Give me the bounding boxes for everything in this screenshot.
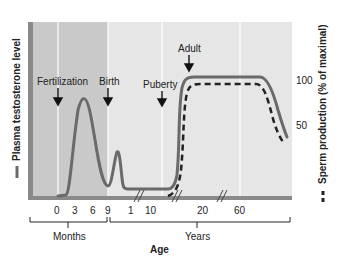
label-adult: Adult xyxy=(178,43,201,54)
y-left-axis-title: Plasma testosterone level xyxy=(11,38,22,161)
group-label-years: Years xyxy=(185,231,210,242)
x-tick-60: 60 xyxy=(234,205,246,216)
x-tick-9: 9 xyxy=(105,205,111,216)
group-label-months: Months xyxy=(53,231,86,242)
testosterone-chart: Fertilization Birth Puberty Adult 100 50… xyxy=(0,0,344,258)
y-right-tick-100: 100 xyxy=(296,75,313,86)
left-axis-bar xyxy=(28,22,33,200)
plot-background-prenatal xyxy=(28,22,108,200)
label-fertilization: Fertilization xyxy=(37,76,88,87)
bottom-axis-bar xyxy=(28,196,292,200)
x-tick-6: 6 xyxy=(90,205,96,216)
label-birth: Birth xyxy=(99,76,120,87)
x-tick-1: 1 xyxy=(128,205,134,216)
y-right-tick-50: 50 xyxy=(296,120,308,131)
x-axis-title: Age xyxy=(150,244,169,255)
label-puberty: Puberty xyxy=(143,79,177,90)
x-tick-3: 3 xyxy=(72,205,78,216)
y-right-axis-title: Sperm production (% of maximal) xyxy=(317,25,328,184)
x-tick-20: 20 xyxy=(197,205,209,216)
x-tick-0: 0 xyxy=(54,205,60,216)
group-brackets xyxy=(30,217,290,228)
x-tick-10: 10 xyxy=(145,205,157,216)
